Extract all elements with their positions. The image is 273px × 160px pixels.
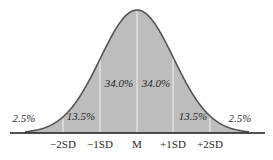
tick-minus-2sd: −2SD <box>50 138 76 150</box>
percent-left-tail: 2.5% <box>13 112 36 124</box>
tick-minus-1sd: −1SD <box>87 138 113 150</box>
percent-mean-to-plus-1: 34.0% <box>141 77 170 89</box>
percent-plus-1-to-2: 13.5% <box>179 110 207 122</box>
tick-plus-1sd: +1SD <box>160 138 186 150</box>
tick-mean: M <box>132 138 142 150</box>
percent-minus-1-to-mean: 34.0% <box>104 77 133 89</box>
normal-distribution-chart: 2.5% 13.5% 34.0% 34.0% 13.5% 2.5% −2SD −… <box>0 0 273 160</box>
tick-plus-2sd: +2SD <box>197 138 223 150</box>
percent-minus-2-to-1: 13.5% <box>67 110 95 122</box>
percent-right-tail: 2.5% <box>229 112 252 124</box>
